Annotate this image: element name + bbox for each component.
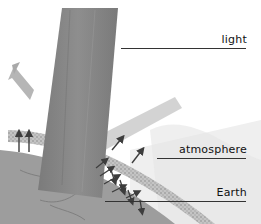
reflected-light-arrow-left	[8, 66, 34, 100]
earth-leader-line	[105, 201, 246, 202]
light-label: light	[222, 34, 247, 46]
atmosphere-label: atmosphere	[179, 144, 247, 156]
light-beam	[38, 8, 118, 198]
atmosphere-leader-line	[157, 158, 246, 159]
light-leader-line	[121, 48, 246, 49]
earth-label: Earth	[217, 187, 248, 199]
